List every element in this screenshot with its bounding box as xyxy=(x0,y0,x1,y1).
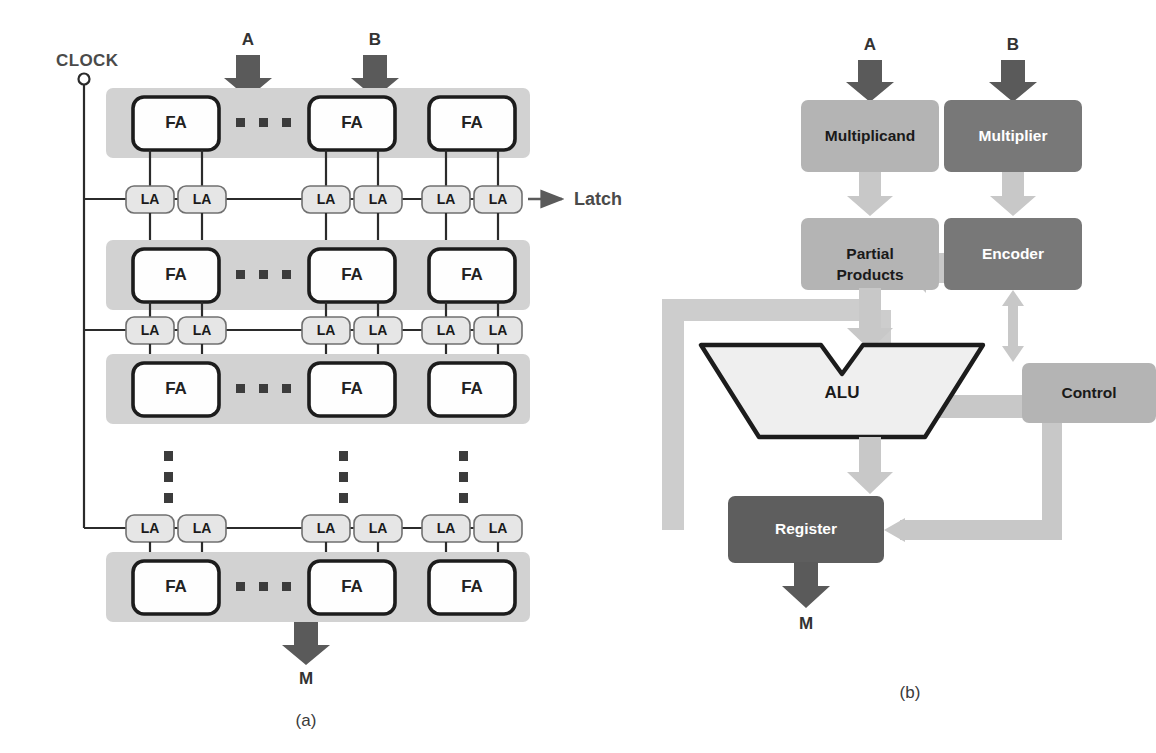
fa-label: FA xyxy=(461,379,483,398)
la-cell: LA xyxy=(474,317,522,344)
output-m-label: M xyxy=(299,669,313,688)
fa-label: FA xyxy=(461,577,483,596)
la-row-3: LA LA LA LA LA LA xyxy=(84,515,522,542)
fa-cell: FA xyxy=(309,561,395,614)
input-a-label: A xyxy=(864,35,876,54)
clock-label: CLOCK xyxy=(56,51,119,70)
figure-root: CLOCK A B FA FA FA xyxy=(0,0,1156,753)
clock-terminal-icon xyxy=(79,74,90,85)
fa-label: FA xyxy=(461,265,483,284)
la-row-2: LA LA LA LA LA LA xyxy=(84,317,522,344)
panel-b-caption: (b) xyxy=(900,683,921,702)
fa-label: FA xyxy=(165,577,187,596)
fa-label: FA xyxy=(165,113,187,132)
block-multiplicand: Multiplicand xyxy=(801,100,939,172)
la-cell: LA xyxy=(178,515,226,542)
la-label: LA xyxy=(437,191,456,207)
la-label: LA xyxy=(317,191,336,207)
fa-row-1: FA FA FA xyxy=(106,88,530,158)
encoder-label: Encoder xyxy=(982,245,1044,262)
fa-cell: FA xyxy=(429,249,515,302)
input-b-label: B xyxy=(1007,35,1019,54)
output-m-label: M xyxy=(799,614,813,633)
la-label: LA xyxy=(193,520,212,536)
la-cell: LA xyxy=(178,186,226,213)
la-cell: LA xyxy=(302,515,350,542)
control-label: Control xyxy=(1061,384,1116,401)
fa-cell: FA xyxy=(133,561,219,614)
fa-label: FA xyxy=(341,265,363,284)
fa-label: FA xyxy=(165,265,187,284)
latch-label: Latch xyxy=(574,189,622,209)
la-label: LA xyxy=(437,322,456,338)
la-cell: LA xyxy=(474,515,522,542)
la-label: LA xyxy=(317,322,336,338)
alu-label: ALU xyxy=(825,383,860,402)
la-cell: LA xyxy=(354,186,402,213)
panel-a-caption: (a) xyxy=(296,711,317,730)
la-label: LA xyxy=(141,322,160,338)
fa-label: FA xyxy=(341,113,363,132)
figure-canvas: CLOCK A B FA FA FA xyxy=(0,0,1156,753)
input-a-label: A xyxy=(242,30,254,49)
la-label: LA xyxy=(141,191,160,207)
fa-row-2: FA FA FA xyxy=(106,240,530,310)
la-cell: LA xyxy=(354,317,402,344)
la-label: LA xyxy=(193,322,212,338)
horizontal-ellipsis-dots xyxy=(236,384,291,393)
fa-label: FA xyxy=(165,379,187,398)
block-encoder: Encoder xyxy=(944,218,1082,290)
block-register: Register xyxy=(728,496,884,563)
la-label: LA xyxy=(317,520,336,536)
la-label: LA xyxy=(489,322,508,338)
la-cell: LA xyxy=(302,317,350,344)
partial-products-label-line2: Products xyxy=(836,266,903,283)
fa-cell: FA xyxy=(309,97,395,150)
la-cell: LA xyxy=(474,186,522,213)
la-label: LA xyxy=(369,322,388,338)
la-cell: LA xyxy=(126,186,174,213)
la-label: LA xyxy=(489,520,508,536)
la-cell: LA xyxy=(354,515,402,542)
la-cell: LA xyxy=(178,317,226,344)
la-label: LA xyxy=(369,520,388,536)
la-label: LA xyxy=(369,191,388,207)
la-cell: LA xyxy=(422,186,470,213)
la-label: LA xyxy=(489,191,508,207)
multiplier-label: Multiplier xyxy=(979,127,1048,144)
block-multiplier: Multiplier xyxy=(944,100,1082,172)
la-label: LA xyxy=(141,520,160,536)
fa-cell: FA xyxy=(133,97,219,150)
fa-label: FA xyxy=(461,113,483,132)
block-control: Control xyxy=(1022,363,1156,423)
horizontal-ellipsis-dots xyxy=(236,118,291,127)
multiplicand-label: Multiplicand xyxy=(825,127,915,144)
register-label: Register xyxy=(775,520,837,537)
fa-cell: FA xyxy=(309,363,395,416)
fa-cell: FA xyxy=(429,363,515,416)
horizontal-ellipsis-dots xyxy=(236,582,291,591)
fa-cell: FA xyxy=(133,249,219,302)
fa-row-4: FA FA FA xyxy=(106,552,530,622)
la-cell: LA xyxy=(126,317,174,344)
horizontal-ellipsis-dots xyxy=(236,270,291,279)
input-b-label: B xyxy=(369,30,381,49)
fa-label: FA xyxy=(341,379,363,398)
la-cell: LA xyxy=(126,515,174,542)
la-cell: LA xyxy=(422,515,470,542)
block-partial-products: Partial Products xyxy=(801,218,939,290)
la-label: LA xyxy=(193,191,212,207)
fa-cell: FA xyxy=(309,249,395,302)
la-cell: LA xyxy=(302,186,350,213)
fa-cell: FA xyxy=(429,561,515,614)
la-cell: LA xyxy=(422,317,470,344)
fa-row-3: FA FA FA xyxy=(106,354,530,424)
fa-cell: FA xyxy=(429,97,515,150)
la-label: LA xyxy=(437,520,456,536)
partial-products-label-line1: Partial xyxy=(846,245,893,262)
fa-label: FA xyxy=(341,577,363,596)
fa-cell: FA xyxy=(133,363,219,416)
